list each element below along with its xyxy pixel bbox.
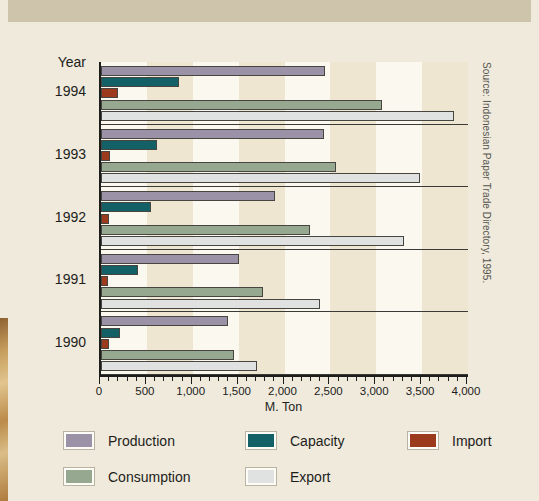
- legend-item-consumption[interactable]: Consumption: [64, 468, 191, 485]
- bar-consumption-1990: [101, 350, 234, 360]
- x-tick-label: 3,000: [360, 385, 389, 397]
- x-tick-major: [420, 377, 421, 384]
- x-tick-minor: [218, 377, 219, 381]
- bar-capacity-1992: [101, 202, 151, 212]
- bar-consumption-1992: [101, 225, 310, 235]
- x-tick-major: [191, 377, 192, 384]
- legend-label: Production: [108, 433, 175, 449]
- bar-group-1993: [101, 125, 468, 188]
- bar-capacity-1991: [101, 265, 138, 275]
- bar-production-1992: [101, 191, 275, 201]
- chart-panel: 19941993199219911990Year 05001,0001,5002…: [8, 30, 531, 501]
- bar-capacity-1994: [101, 77, 179, 87]
- bar-export-1990: [101, 361, 257, 371]
- x-tick-label: 4,000: [452, 385, 481, 397]
- bar-import-1992: [101, 214, 109, 224]
- bar-import-1991: [101, 276, 108, 286]
- x-tick-minor: [154, 377, 155, 381]
- x-tick-major: [328, 377, 329, 384]
- chart-legend: ProductionCapacityImportConsumptionExpor…: [64, 432, 524, 500]
- bar-production-1994: [101, 66, 325, 76]
- x-tick-major: [283, 377, 284, 384]
- x-tick-major: [466, 377, 467, 384]
- x-tick-major: [145, 377, 146, 384]
- x-tick-minor: [117, 377, 118, 381]
- x-tick-minor: [136, 377, 137, 381]
- bar-import-1990: [101, 339, 109, 349]
- legend-item-capacity[interactable]: Capacity: [246, 432, 344, 449]
- x-tick-minor: [246, 377, 247, 381]
- bar-export-1991: [101, 299, 320, 309]
- y-axis-header: Year: [58, 54, 86, 70]
- x-tick-minor: [200, 377, 201, 381]
- legend-swatch-consumption: [64, 468, 94, 485]
- legend-swatch-production: [64, 432, 94, 449]
- legend-swatch-capacity: [246, 432, 276, 449]
- x-tick-minor: [393, 377, 394, 381]
- x-tick-minor: [273, 377, 274, 381]
- x-tick-label: 1,500: [222, 385, 251, 397]
- source-note-text: Source: Indonesian Paper Trade Directory…: [481, 62, 492, 283]
- x-tick-minor: [383, 377, 384, 381]
- x-tick-minor: [264, 377, 265, 381]
- x-tick-minor: [163, 377, 164, 381]
- bar-consumption-1994: [101, 100, 382, 110]
- x-tick-minor: [292, 377, 293, 381]
- title-band: [8, 0, 531, 22]
- x-tick-minor: [172, 377, 173, 381]
- legend-label: Import: [452, 433, 492, 449]
- bar-import-1994: [101, 88, 118, 98]
- x-tick-minor: [411, 377, 412, 381]
- y-axis-label-1990: 1990: [55, 334, 86, 350]
- bar-consumption-1991: [101, 287, 263, 297]
- y-axis-labels: 19941993199219911990Year: [8, 30, 94, 375]
- x-tick-minor: [301, 377, 302, 381]
- legend-item-import[interactable]: Import: [408, 432, 492, 449]
- bar-capacity-1990: [101, 328, 120, 338]
- bar-production-1991: [101, 254, 239, 264]
- x-tick-label: 2,000: [268, 385, 297, 397]
- x-tick-major: [99, 377, 100, 384]
- x-tick-minor: [127, 377, 128, 381]
- legend-swatch-import: [408, 432, 438, 449]
- legend-item-export[interactable]: Export: [246, 468, 330, 485]
- bar-group-1990: [101, 312, 468, 375]
- source-note: Source: Indonesian Paper Trade Directory…: [478, 62, 494, 375]
- x-tick-label: 3,500: [406, 385, 435, 397]
- x-tick-minor: [429, 377, 430, 381]
- y-axis-label-1993: 1993: [55, 146, 86, 162]
- legend-swatch-export: [246, 468, 276, 485]
- x-tick-minor: [108, 377, 109, 381]
- bar-group-1992: [101, 187, 468, 250]
- bar-import-1993: [101, 151, 110, 161]
- x-tick-label: 2,500: [314, 385, 343, 397]
- bar-group-1994: [101, 62, 468, 125]
- bar-production-1993: [101, 129, 324, 139]
- x-tick-minor: [319, 377, 320, 381]
- bar-export-1993: [101, 173, 420, 183]
- legend-label: Consumption: [108, 469, 191, 485]
- legend-label: Export: [290, 469, 330, 485]
- bar-export-1994: [101, 111, 454, 121]
- x-tick-minor: [209, 377, 210, 381]
- x-tick-minor: [356, 377, 357, 381]
- x-tick-minor: [402, 377, 403, 381]
- x-tick-label: 500: [135, 385, 154, 397]
- legend-item-production[interactable]: Production: [64, 432, 175, 449]
- x-tick-label: 0: [96, 385, 102, 397]
- legend-label: Capacity: [290, 433, 344, 449]
- x-tick-minor: [338, 377, 339, 381]
- y-axis-label-1991: 1991: [55, 271, 86, 287]
- x-tick-minor: [182, 377, 183, 381]
- x-tick-minor: [347, 377, 348, 381]
- bar-production-1990: [101, 316, 228, 326]
- bar-group-1991: [101, 250, 468, 313]
- bar-capacity-1993: [101, 140, 157, 150]
- x-tick-minor: [310, 377, 311, 381]
- x-tick-major: [237, 377, 238, 384]
- x-tick-minor: [457, 377, 458, 381]
- bar-export-1992: [101, 236, 404, 246]
- x-tick-minor: [227, 377, 228, 381]
- x-axis-title: M. Ton: [99, 400, 468, 414]
- x-tick-label: 1,000: [176, 385, 205, 397]
